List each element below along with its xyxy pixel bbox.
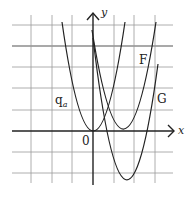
label-origin: 0 <box>82 134 90 148</box>
label-y-axis: y <box>100 6 108 19</box>
label-F: F <box>139 53 147 67</box>
coordinate-diagram: x y 0 qa F G <box>0 0 192 198</box>
label-q-a: qa <box>55 93 68 109</box>
label-G: G <box>157 92 167 106</box>
label-x-axis: x <box>178 124 185 137</box>
curve-F <box>92 22 156 129</box>
curve-G <box>93 38 158 180</box>
